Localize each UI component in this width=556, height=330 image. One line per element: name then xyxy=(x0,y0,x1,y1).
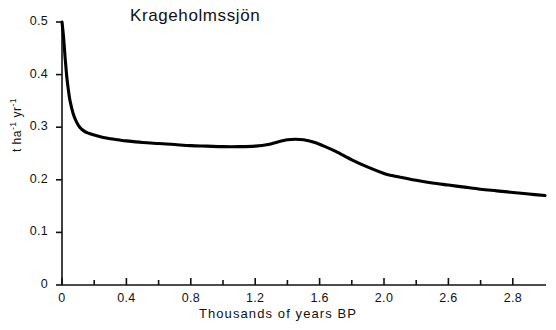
y-tick-label: 0.1 xyxy=(8,224,48,238)
x-tick-label: 2.8 xyxy=(493,291,533,305)
x-tick-label: 0.4 xyxy=(106,291,146,305)
x-tick-label: 1.6 xyxy=(300,291,340,305)
x-tick-label: 2.0 xyxy=(364,291,404,305)
y-axis-ticks xyxy=(56,22,62,285)
x-tick-label: 2.6 xyxy=(428,291,468,305)
data-series-line xyxy=(62,22,545,196)
y-tick-label: 0.5 xyxy=(8,14,48,28)
x-axis-ticks xyxy=(62,278,513,285)
y-tick-label: 0.4 xyxy=(8,67,48,81)
y-tick-label: 0.2 xyxy=(8,172,48,186)
y-tick-label: 0 xyxy=(8,277,48,291)
plot-area xyxy=(0,0,556,330)
x-tick-label: 0.8 xyxy=(171,291,211,305)
y-tick-label: 0.3 xyxy=(8,119,48,133)
x-tick-label: 1.2 xyxy=(235,291,275,305)
x-tick-label: 0 xyxy=(42,291,82,305)
figure-container: Krageholmssjön t ha-1 yr-1 Thousands of … xyxy=(0,0,556,330)
axis-lines xyxy=(62,22,546,285)
